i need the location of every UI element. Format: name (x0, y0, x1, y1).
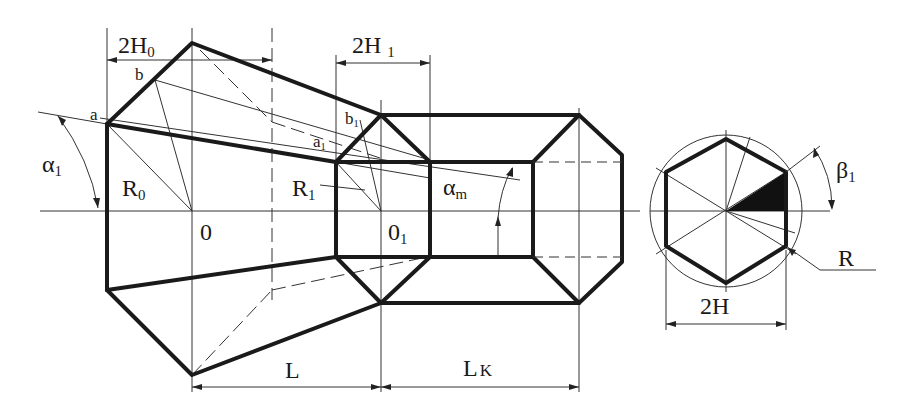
label-l: L (285, 358, 300, 382)
label-point-b1: b1 (345, 110, 359, 129)
arrow-icon (371, 384, 381, 390)
beta-sector (726, 172, 786, 211)
label-beta1: β1 (836, 158, 856, 185)
arrow-icon (262, 57, 272, 63)
label-r: R (838, 246, 854, 270)
label-point-a1: a1 (313, 133, 326, 152)
arrow-icon (420, 60, 430, 66)
arrow-icon (336, 60, 346, 66)
alpha1-arc (58, 116, 98, 208)
beta1-arc (814, 148, 832, 208)
arrow-icon (569, 384, 579, 390)
label-point-b: b (135, 66, 144, 83)
label-2h: 2H (700, 294, 729, 318)
upper-edge (107, 124, 336, 162)
arrow-icon (93, 198, 100, 208)
label-center-01: 01 (388, 220, 407, 247)
arrow-icon (107, 57, 117, 63)
arrow-icon (58, 116, 66, 126)
arrow-icon (776, 321, 786, 327)
octagon-back (533, 115, 622, 303)
arrow-icon (666, 321, 676, 327)
octagon-front (336, 115, 430, 303)
bottom-outline (107, 290, 381, 375)
label-point-a: a (90, 106, 98, 123)
label-r1: R1 (292, 176, 315, 203)
label-alpham: αm (443, 175, 467, 202)
arrow-icon (828, 200, 835, 210)
label-2h0: 2H0 (118, 33, 155, 60)
a-ray-line (100, 118, 520, 180)
drawing-svg (0, 0, 911, 409)
arrow-icon (495, 216, 501, 226)
label-alpha1: α1 (42, 152, 62, 179)
hex-diag-2 (656, 172, 786, 254)
label-2h1: 2H 1 (352, 33, 395, 60)
label-r0: R0 (122, 176, 145, 203)
r1-line (336, 162, 381, 211)
arrow-icon (381, 384, 391, 390)
lower-edge (107, 257, 336, 290)
arrow-icon (506, 167, 513, 177)
dashed-bottom-diag (192, 290, 272, 375)
label-center-0: 0 (200, 220, 212, 244)
label-lk: LK (463, 356, 492, 380)
diagram-canvas: 2H0 2H 1 b a b1 a1 α1 R0 R1 0 01 αm L LK… (0, 0, 911, 409)
arrow-icon (192, 384, 202, 390)
